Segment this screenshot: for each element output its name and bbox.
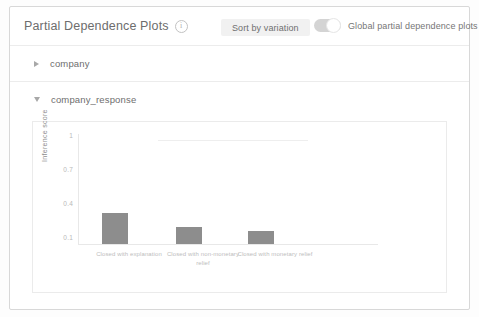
x-tick-label: Closed with non-monetary relief (165, 250, 241, 267)
x-tick-label: Closed with monetary relief (237, 250, 313, 259)
info-icon[interactable]: i (175, 20, 188, 33)
page-title: Partial Dependence Plots (24, 19, 169, 33)
chart-panel: Inference score 1 0.7 0.4 0.1 Closed wit… (32, 121, 447, 293)
y-axis-line (78, 134, 79, 244)
chevron-down-icon (34, 97, 40, 102)
accordion-item-company[interactable]: company (10, 46, 469, 81)
bar-2[interactable] (248, 231, 274, 244)
accordion-item-company-response[interactable]: company_response (10, 82, 469, 117)
bar-1[interactable] (176, 227, 202, 244)
bar-chart: Inference score 1 0.7 0.4 0.1 Closed wit… (33, 122, 446, 292)
accordion-label-company-response: company_response (51, 94, 136, 105)
x-tick-label: Closed with explanation (91, 250, 167, 259)
y-tick-label: 1 (51, 132, 73, 139)
bar-0[interactable] (102, 213, 128, 244)
y-tick-label: 0.7 (51, 166, 73, 173)
page-background: Partial Dependence Plots i Sort by varia… (0, 0, 479, 317)
y-tick-label: 0.1 (51, 234, 73, 241)
global-pdp-toggle-label: Global partial dependence plots (348, 21, 478, 31)
global-pdp-toggle-group: Global partial dependence plots (314, 19, 478, 32)
global-pdp-toggle[interactable] (314, 19, 341, 32)
card-header: Partial Dependence Plots i Sort by varia… (10, 7, 469, 45)
reference-line (158, 140, 308, 141)
toggle-knob (326, 18, 341, 33)
chevron-right-icon (34, 61, 39, 67)
partial-dependence-card: Partial Dependence Plots i Sort by varia… (9, 6, 470, 310)
sort-by-variation-button[interactable]: Sort by variation (221, 19, 310, 36)
x-axis-line (78, 244, 378, 245)
y-tick-label: 0.4 (51, 200, 73, 207)
y-axis-label: Inference score (41, 92, 48, 162)
accordion-label-company: company (50, 58, 90, 69)
